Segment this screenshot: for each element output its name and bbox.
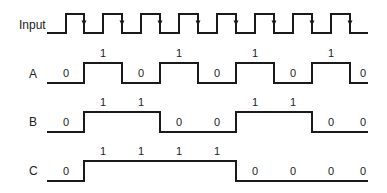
down-arrow-icon: [82, 21, 87, 26]
bit-value-a: 0: [63, 67, 69, 79]
bit-value-c: 0: [328, 165, 334, 177]
bit-value-c: 0: [360, 165, 366, 177]
bit-value-c: 1: [176, 145, 182, 157]
bit-value-c: 1: [100, 145, 106, 157]
signal-labels: Input A B C: [19, 18, 46, 178]
bit-value-b: 0: [63, 116, 69, 128]
bit-value-c: 0: [290, 165, 296, 177]
input-signal-label: Input: [19, 18, 46, 32]
bit-value-a: 1: [328, 47, 334, 59]
bit-value-c: 0: [252, 165, 258, 177]
bit-value-a: 0: [138, 67, 144, 79]
bit-value-a: 1: [100, 47, 106, 59]
bit-value-a: 0: [214, 67, 220, 79]
bit-value-b: 1: [290, 96, 296, 108]
signal-b-label: B: [29, 115, 37, 129]
down-arrow-icon: [120, 21, 125, 26]
signal-c-waveform: [47, 161, 368, 181]
down-arrow-icon: [158, 21, 163, 26]
signal-c-label: C: [29, 164, 38, 178]
output-waveforms: [47, 63, 368, 181]
bit-value-b: 1: [138, 96, 144, 108]
bit-value-a: 1: [252, 47, 258, 59]
timing-diagram: Input A B C 010101010011001100011110000: [0, 0, 387, 193]
bit-value-b: 1: [252, 96, 258, 108]
bit-value-b: 0: [176, 116, 182, 128]
bit-value-a: 0: [290, 67, 296, 79]
bit-value-c: 0: [63, 165, 69, 177]
input-clock-path: [47, 14, 368, 33]
bit-value-a: 1: [176, 47, 182, 59]
down-arrow-icon: [310, 21, 315, 26]
bit-value-c: 1: [214, 145, 220, 157]
signal-a-waveform: [47, 63, 368, 83]
bit-value-b: 0: [214, 116, 220, 128]
signal-b-waveform: [47, 112, 368, 132]
bit-value-b: 0: [360, 116, 366, 128]
down-arrow-icon: [234, 21, 239, 26]
bit-value-b: 0: [328, 116, 334, 128]
input-clock-waveform: [47, 14, 368, 33]
down-arrow-icon: [272, 21, 277, 26]
bit-value-a: 0: [360, 67, 366, 79]
down-arrow-icon: [348, 21, 353, 26]
down-arrow-icon: [196, 21, 201, 26]
signal-a-label: A: [29, 67, 37, 81]
bit-value-b: 1: [100, 96, 106, 108]
bit-value-c: 1: [138, 145, 144, 157]
